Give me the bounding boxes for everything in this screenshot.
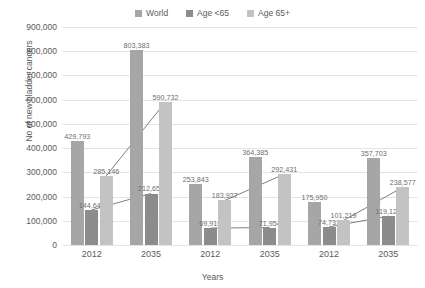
bar[interactable] [323, 227, 336, 245]
legend-swatch-icon [186, 10, 193, 17]
bar-value-label: 101,219 [331, 211, 357, 220]
gridline [62, 124, 418, 125]
bar[interactable] [218, 200, 231, 245]
plot-area: 0100,000200,000300,000400,000500,000600,… [62, 27, 418, 245]
x-axis-tick-label: 2012 [200, 249, 220, 259]
bar[interactable] [85, 210, 98, 245]
bar[interactable] [367, 158, 380, 245]
gridline [62, 197, 418, 198]
x-axis-tick-label: 2035 [378, 249, 398, 259]
gridline [62, 75, 418, 76]
bar-value-label: 292,431 [271, 165, 297, 174]
bar-chart: WorldAge <65Age 65+ No of new bladder ca… [0, 0, 425, 288]
bar-value-label: 253,843 [183, 175, 209, 184]
y-axis-tick-label: 400,000 [26, 143, 57, 153]
y-axis-tick-label: 800,000 [26, 46, 57, 56]
bar-value-label: 175,950 [302, 193, 328, 202]
gridline [62, 27, 418, 28]
x-axis-tick-label: 2012 [82, 249, 102, 259]
y-axis-tick-label: 300,000 [26, 167, 57, 177]
y-axis-tick-label: 500,000 [26, 119, 57, 129]
y-axis-tick-label: 0 [52, 240, 57, 250]
gridline [62, 100, 418, 101]
bar[interactable] [159, 102, 172, 245]
legend-swatch-icon [247, 10, 254, 17]
bar-value-label: 183,927 [212, 191, 238, 200]
connector-lines [62, 27, 418, 245]
gridline [62, 221, 418, 222]
bar[interactable] [204, 228, 217, 245]
bar-value-label: 803,383 [124, 41, 150, 50]
bar-value-label: 285,146 [93, 167, 119, 176]
chart-legend: WorldAge <65Age 65+ [0, 9, 425, 18]
x-axis-tick-label: 2035 [260, 249, 280, 259]
bar-value-label: 429,793 [64, 132, 90, 141]
y-axis-tick-label: 700,000 [26, 70, 57, 80]
x-axis-tick-label: 2035 [141, 249, 161, 259]
legend-label: World [146, 9, 168, 18]
bar-value-label: 238,577 [390, 178, 416, 187]
legend-item-age-65[interactable]: Age 65+ [247, 9, 290, 18]
y-axis-tick-label: 900,000 [26, 22, 57, 32]
legend-item-age-65[interactable]: Age <65 [186, 9, 229, 18]
bar-value-label: 357,703 [361, 149, 387, 158]
legend-label: Age 65+ [258, 9, 290, 18]
legend-swatch-icon [135, 10, 142, 17]
bar[interactable] [382, 216, 395, 245]
bar[interactable] [71, 141, 84, 245]
y-axis-tick-label: 600,000 [26, 95, 57, 105]
gridline [62, 51, 418, 52]
y-axis-tick-label: 200,000 [26, 192, 57, 202]
bar[interactable] [337, 220, 350, 245]
bar[interactable] [130, 50, 143, 245]
bar[interactable] [145, 194, 158, 246]
x-axis-title: Years [0, 272, 425, 282]
bar-value-label: 590,732 [153, 93, 179, 102]
legend-label: Age <65 [197, 9, 229, 18]
gridline [62, 245, 418, 246]
bar[interactable] [263, 228, 276, 245]
bar[interactable] [100, 176, 113, 245]
bar[interactable] [278, 174, 291, 245]
y-axis-tick-label: 100,000 [26, 216, 57, 226]
legend-item-world[interactable]: World [135, 9, 168, 18]
bar[interactable] [249, 157, 262, 245]
bar-value-label: 364,385 [242, 148, 268, 157]
bar[interactable] [189, 184, 202, 245]
bar[interactable] [396, 187, 409, 245]
x-axis-tick-label: 2012 [319, 249, 339, 259]
